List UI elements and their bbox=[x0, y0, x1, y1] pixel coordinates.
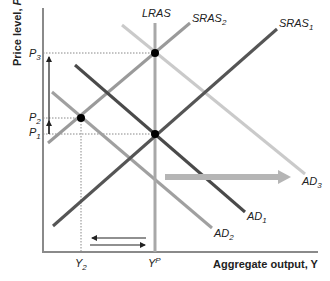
y-axis-title: Price level, P bbox=[11, 0, 23, 66]
ad2-label: AD2 bbox=[213, 227, 234, 242]
ad1-label: AD1 bbox=[246, 210, 267, 225]
ad-shift-arrow-head bbox=[278, 170, 291, 184]
equilibrium-p2-dot bbox=[77, 114, 85, 122]
p2-tick-label: P2 bbox=[29, 111, 41, 126]
y2-tick-label: Y2 bbox=[75, 257, 87, 272]
ad3-curve bbox=[122, 25, 305, 174]
lras-label: LRAS bbox=[142, 7, 171, 19]
sras2-label: SRAS2 bbox=[192, 12, 227, 27]
ad1-curve bbox=[75, 65, 245, 212]
p3-tick-label: P3 bbox=[29, 47, 41, 62]
equilibrium-p3-dot bbox=[151, 49, 159, 57]
equilibrium-p1-dot bbox=[151, 130, 159, 138]
x-axis-title: Aggregate output, Y bbox=[213, 258, 319, 270]
p1-tick-label: P1 bbox=[29, 126, 41, 141]
ad3-label: AD3 bbox=[301, 175, 322, 190]
yp-tick-label: YP bbox=[148, 256, 161, 269]
as-ad-diagram: LRAS SRAS2 SRAS1 AD3 AD1 AD2 P3 P2 P1 Y2… bbox=[0, 0, 330, 281]
sras1-label: SRAS1 bbox=[279, 17, 313, 32]
